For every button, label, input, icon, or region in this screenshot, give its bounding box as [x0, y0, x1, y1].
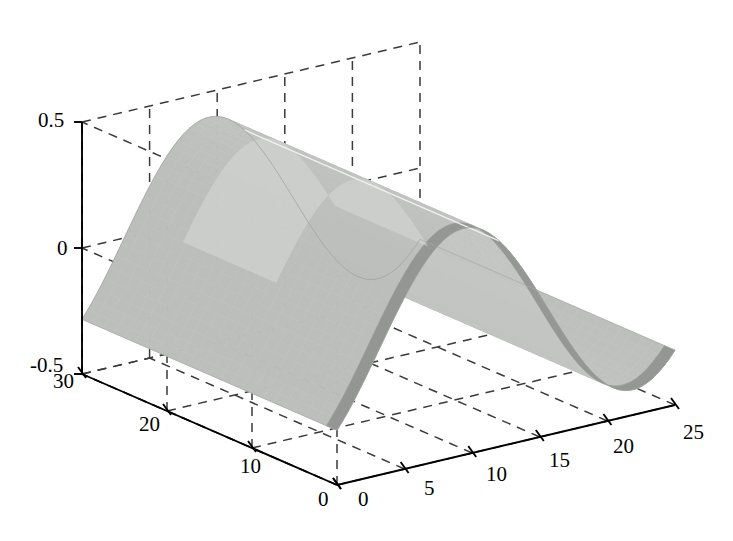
x-tick-label: 25	[683, 422, 704, 443]
x-tick-label: 0	[358, 489, 369, 510]
y-tick-label: 20	[139, 414, 160, 435]
y-tick-label: 10	[240, 456, 261, 477]
x-tick-label: 20	[613, 436, 634, 457]
x-tick-label: 15	[549, 450, 570, 471]
y-tick-label: 30	[53, 371, 74, 392]
surface-mesh	[82, 116, 675, 430]
x-tick-label: 5	[424, 478, 435, 499]
x-tick-label: 10	[486, 464, 507, 485]
surface-plot-figure: 0.5 0 -0.5 30 20 10 0 0 5 10 15 20 25	[0, 0, 733, 541]
y-tick-label: 0	[318, 489, 329, 510]
z-tick-label: 0	[57, 238, 68, 259]
z-tick-label: 0.5	[38, 110, 64, 131]
plot-canvas	[0, 0, 733, 541]
